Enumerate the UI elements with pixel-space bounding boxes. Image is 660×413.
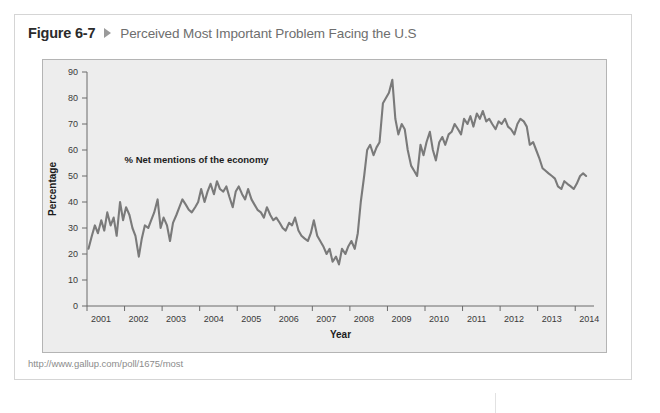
x-tick-label: 2003 bbox=[166, 314, 186, 324]
figure-title: Perceived Most Important Problem Facing … bbox=[120, 26, 416, 41]
line-chart: 0102030405060708090 20012002200320042005… bbox=[43, 60, 606, 352]
chart-plot-frame: 0102030405060708090 20012002200320042005… bbox=[42, 59, 607, 353]
figure-caption: Figure 6-7 Perceived Most Important Prob… bbox=[15, 15, 631, 51]
x-tick-label: 2009 bbox=[391, 314, 411, 324]
x-tick-label: 2002 bbox=[129, 314, 149, 324]
y-tick-label: 40 bbox=[68, 197, 78, 207]
source-url: http://www.gallup.com/poll/1675/most bbox=[28, 358, 183, 369]
x-tick-label: 2008 bbox=[354, 314, 374, 324]
x-axis: 2001200220032004200520062007200820092010… bbox=[87, 306, 599, 324]
data-series-group bbox=[89, 80, 587, 265]
chart-annotations: % Net mentions of the economy bbox=[125, 154, 270, 165]
y-tick-label: 90 bbox=[68, 67, 78, 77]
y-tick-label: 0 bbox=[73, 301, 78, 311]
y-tick-label: 30 bbox=[68, 223, 78, 233]
y-tick-label: 10 bbox=[68, 275, 78, 285]
x-tick-label: 2004 bbox=[204, 314, 224, 324]
data-line bbox=[89, 80, 587, 265]
y-tick-label: 20 bbox=[68, 249, 78, 259]
x-tick-label: 2006 bbox=[279, 314, 299, 324]
series-annotation-label: % Net mentions of the economy bbox=[125, 154, 270, 165]
y-axis: 0102030405060708090 bbox=[68, 67, 87, 311]
page-gutter-rule bbox=[495, 393, 496, 413]
x-tick-label: 2001 bbox=[91, 314, 111, 324]
x-tick-label: 2014 bbox=[579, 314, 599, 324]
source-row: http://www.gallup.com/poll/1675/most bbox=[28, 355, 618, 371]
triangle-right-icon bbox=[104, 28, 111, 38]
figure-card: Figure 6-7 Perceived Most Important Prob… bbox=[14, 14, 632, 380]
x-tick-label: 2010 bbox=[429, 314, 449, 324]
y-tick-label: 50 bbox=[68, 171, 78, 181]
x-tick-label: 2011 bbox=[467, 314, 486, 324]
y-tick-label: 60 bbox=[68, 145, 78, 155]
figure-number: Figure 6-7 bbox=[28, 25, 95, 41]
x-axis-title: Year bbox=[330, 329, 351, 340]
x-tick-label: 2005 bbox=[241, 314, 261, 324]
x-tick-label: 2012 bbox=[504, 314, 524, 324]
y-tick-label: 70 bbox=[68, 119, 78, 129]
y-tick-label: 80 bbox=[68, 93, 78, 103]
x-tick-label: 2007 bbox=[316, 314, 336, 324]
x-tick-label: 2013 bbox=[542, 314, 562, 324]
y-axis-title: Percentage bbox=[47, 162, 58, 216]
